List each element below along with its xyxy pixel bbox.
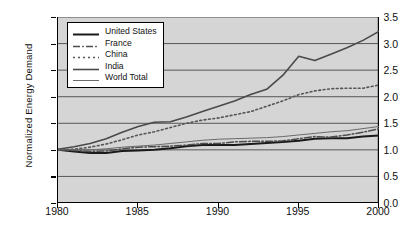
legend-label: India xyxy=(105,61,124,72)
legend-item-china: China xyxy=(72,49,157,61)
legend-label: China xyxy=(105,49,127,60)
y-tick-mark xyxy=(51,70,56,71)
legend-label: United States xyxy=(105,26,157,37)
y-tick-mark xyxy=(51,176,56,177)
series-line-china xyxy=(58,85,379,150)
legend-item-france: France xyxy=(72,38,157,50)
legend-key-swatch xyxy=(72,49,100,60)
legend-item-united-states: United States xyxy=(72,26,157,38)
y-axis-title: Normalized Energy Demand xyxy=(23,21,34,191)
y-tick-mark xyxy=(51,17,56,18)
x-tick-mark xyxy=(378,203,379,208)
x-tick-mark xyxy=(57,203,58,208)
x-tick-mark xyxy=(218,203,219,208)
legend-label: World Total xyxy=(105,72,148,83)
legend-label: France xyxy=(105,38,132,49)
legend-key-swatch xyxy=(72,38,100,49)
y-tick-mark xyxy=(51,44,56,45)
legend-item-india: India xyxy=(72,61,157,73)
x-tick-mark xyxy=(137,203,138,208)
chart-legend: United StatesFranceChinaIndiaWorld Total xyxy=(67,22,164,88)
legend-item-world-total: World Total xyxy=(72,72,157,84)
x-tick-mark xyxy=(298,203,299,208)
x-tick-label: 2000 xyxy=(348,205,403,217)
y-tick-mark xyxy=(51,150,56,151)
y-tick-mark xyxy=(51,203,56,204)
legend-key-swatch xyxy=(72,61,100,72)
legend-key-swatch xyxy=(72,72,100,83)
y-tick-mark xyxy=(51,97,56,98)
y-tick-mark xyxy=(51,123,56,124)
legend-key-swatch xyxy=(72,26,100,37)
